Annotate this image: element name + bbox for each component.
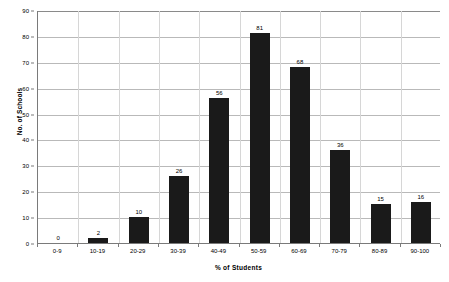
bar[interactable] <box>411 202 431 243</box>
y-axis-tick-label: 50 <box>22 112 29 118</box>
bar-value-label: 36 <box>337 142 344 148</box>
y-axis-tick-mark <box>31 11 34 12</box>
x-axis-tick-mark <box>239 244 240 247</box>
x-axis-tick-mark <box>158 244 159 247</box>
x-axis-tick-label: 0-9 <box>53 248 62 255</box>
y-axis-tick-label: 40 <box>22 137 29 143</box>
bar-value-label: 16 <box>417 194 424 200</box>
x-axis-tick-mark <box>319 244 320 247</box>
y-axis-tick-label: 80 <box>22 34 29 40</box>
y-axis-tick-label: 10 <box>22 215 29 221</box>
bar-value-label: 26 <box>176 168 183 174</box>
y-axis-tick-mark <box>31 114 34 115</box>
y-axis-tick-mark <box>31 166 34 167</box>
bars-layer: 021026568168361516 <box>38 11 440 243</box>
y-axis-tick-mark <box>31 88 34 89</box>
bar-group[interactable]: 68 <box>280 11 320 243</box>
bar-group[interactable]: 2 <box>78 11 118 243</box>
y-axis-tick-mark <box>31 140 34 141</box>
y-axis-tick-label: 20 <box>22 189 29 195</box>
bar-value-label: 68 <box>297 59 304 65</box>
bar-value-label: 15 <box>377 196 384 202</box>
bar[interactable] <box>209 98 229 243</box>
y-axis-tick-label: 30 <box>22 163 29 169</box>
y-axis-tick-mark <box>31 218 34 219</box>
x-axis-tick-label: 10-19 <box>90 248 105 255</box>
bar[interactable] <box>129 217 149 243</box>
y-axis-tick-label: 60 <box>22 86 29 92</box>
x-axis-title: % of Students <box>37 264 440 271</box>
x-axis-tick-label: 40-49 <box>211 248 226 255</box>
x-axis-tick-mark <box>279 244 280 247</box>
y-axis-tick-labels: 0102030405060708090 <box>0 11 34 244</box>
x-axis-tick-label: 70-79 <box>332 248 347 255</box>
bar-value-label: 10 <box>135 209 142 215</box>
bar[interactable] <box>290 67 310 243</box>
x-axis-tick-labels: 0-910-1920-2930-3940-4950-5960-6970-7980… <box>37 244 440 258</box>
bar-group[interactable]: 26 <box>159 11 199 243</box>
bar-chart: No. of Schools 0102030405060708090 02102… <box>0 0 449 282</box>
bar-group[interactable]: 0 <box>38 11 78 243</box>
x-axis-tick-label: 20-29 <box>130 248 145 255</box>
y-axis-tick-mark <box>31 36 34 37</box>
bar-value-label: 0 <box>56 235 59 241</box>
bar-group[interactable]: 16 <box>401 11 441 243</box>
x-axis-tick-label: 60-69 <box>291 248 306 255</box>
bar[interactable] <box>169 176 189 243</box>
bar-value-label: 81 <box>256 25 263 31</box>
x-axis-tick-mark <box>77 244 78 247</box>
bar-group[interactable]: 15 <box>360 11 400 243</box>
y-axis-tick-label: 70 <box>22 60 29 66</box>
bar-value-label: 56 <box>216 90 223 96</box>
bar[interactable] <box>250 33 270 243</box>
x-axis-tick-mark <box>440 244 441 247</box>
x-axis-tick-mark <box>118 244 119 247</box>
y-axis-tick-mark <box>31 62 34 63</box>
bar-group[interactable]: 56 <box>199 11 239 243</box>
x-axis-tick-label: 50-59 <box>251 248 266 255</box>
x-axis-tick-label: 80-89 <box>372 248 387 255</box>
y-axis-tick-mark <box>31 192 34 193</box>
y-axis-tick-label: 0 <box>26 241 29 247</box>
x-axis-tick-mark <box>198 244 199 247</box>
bar-group[interactable]: 81 <box>240 11 280 243</box>
x-axis-tick-mark <box>400 244 401 247</box>
y-axis-tick-label: 90 <box>22 8 29 14</box>
x-axis-tick-label: 90-100 <box>411 248 430 255</box>
bar[interactable] <box>371 204 391 243</box>
x-axis-tick-label: 30-39 <box>170 248 185 255</box>
bar-group[interactable]: 10 <box>119 11 159 243</box>
plot-area: 021026568168361516 <box>37 11 440 244</box>
bar-group[interactable]: 36 <box>320 11 360 243</box>
bar[interactable] <box>88 238 108 243</box>
x-axis-tick-mark <box>359 244 360 247</box>
y-axis-tick-mark <box>31 244 34 245</box>
x-axis-tick-mark <box>37 244 38 247</box>
bar[interactable] <box>330 150 350 243</box>
bar-value-label: 2 <box>97 230 100 236</box>
